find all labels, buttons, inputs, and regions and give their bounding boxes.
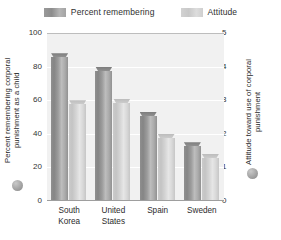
right-axis-tick-0: 0	[222, 197, 240, 205]
right-axis-tick-3: 3	[222, 96, 240, 104]
bar-sweden-attitude	[202, 154, 219, 201]
bar-south-korea-percent-remembering	[51, 53, 68, 201]
right-axis-title: Attitude toward use of corporal punishme…	[244, 52, 262, 172]
x-axis-category-labels: South KoreaUnited StatesSpainSweden	[47, 205, 224, 237]
bar-body	[158, 138, 175, 201]
x-axis-label-south-korea: South Korea	[47, 205, 91, 227]
left-axis-tick-40: 40	[24, 130, 42, 138]
legend-entry-percent-remembering: Percent remembering	[44, 7, 155, 17]
bar-united-states-percent-remembering	[95, 67, 112, 201]
legend-swatch-icon-attitude	[181, 8, 203, 17]
bar-body	[140, 116, 157, 201]
chart-figure: Percent remembering Attitude Percent rem…	[0, 0, 281, 240]
bar-body	[202, 158, 219, 201]
legend-label-percent-remembering: Percent remembering	[71, 7, 155, 17]
left-axis-tick-20: 20	[24, 163, 42, 171]
left-axis-title: Percent remembering corporal punishment …	[3, 40, 21, 180]
x-axis-label-sweden: Sweden	[180, 205, 224, 216]
plot-area	[47, 33, 224, 201]
right-axis-marker-icon	[247, 168, 258, 179]
legend-swatch-icon-percent-remembering	[44, 8, 66, 17]
bar-south-korea-attitude	[69, 100, 86, 201]
chart-legend: Percent remembering Attitude	[0, 4, 281, 20]
left-axis-tick-0: 0	[24, 197, 42, 205]
right-axis-tick-1: 1	[222, 163, 240, 171]
legend-label-attitude: Attitude	[208, 7, 238, 17]
bar-united-states-attitude	[113, 99, 130, 201]
bar-spain-attitude	[158, 134, 175, 201]
legend-entry-attitude: Attitude	[181, 7, 238, 17]
right-axis-tick-5: 5	[222, 29, 240, 37]
bar-body	[113, 103, 130, 201]
left-axis-tick-80: 80	[24, 63, 42, 71]
left-axis-tick-labels: 100806040200	[22, 26, 42, 208]
x-axis-label-spain: Spain	[136, 205, 180, 216]
bar-spain-percent-remembering	[140, 112, 157, 201]
bar-series-group	[47, 33, 224, 201]
x-axis-label-united-states: United States	[91, 205, 135, 227]
left-axis-tick-100: 100	[24, 29, 42, 37]
bar-body	[69, 104, 86, 201]
right-axis-tick-labels: 543210	[222, 26, 242, 208]
bar-body	[95, 71, 112, 201]
right-axis-tick-2: 2	[222, 130, 240, 138]
bar-sweden-percent-remembering	[184, 142, 201, 201]
bar-body	[51, 57, 68, 201]
left-axis-tick-60: 60	[24, 96, 42, 104]
right-axis-tick-4: 4	[222, 63, 240, 71]
bar-body	[184, 146, 201, 201]
plot-baseline	[47, 200, 224, 201]
